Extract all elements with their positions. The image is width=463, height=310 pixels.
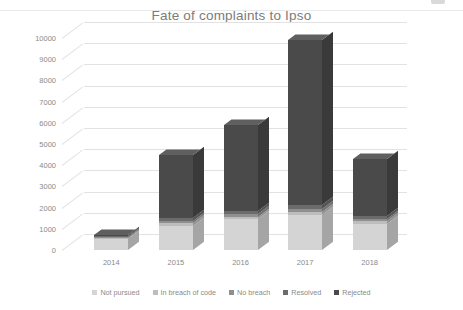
chart-legend: Not pursuedIn breach of codeNo breachRes… (0, 288, 463, 297)
axis-depth-line (62, 22, 83, 38)
y-axis-tick-label: 9000 (10, 55, 56, 64)
bar-segment (288, 212, 322, 215)
y-axis-tick-label: 8000 (10, 76, 56, 85)
bar-segment (353, 216, 387, 219)
bar-segment (94, 239, 128, 250)
legend-label: Rejected (342, 288, 370, 297)
axis-depth-line (62, 44, 83, 60)
bar-segment-side (193, 146, 204, 218)
legend-swatch-icon (92, 290, 97, 295)
bar-front-face (353, 159, 387, 250)
y-axis-tick-label: 0 (10, 246, 56, 255)
bar-segment (159, 155, 193, 218)
bar-side-face (258, 117, 269, 250)
gridline (84, 64, 407, 65)
legend-label: In breach of code (161, 288, 217, 297)
legend-label: Resolved (291, 288, 321, 297)
x-axis-tick-label: 2015 (146, 258, 206, 267)
gridline (84, 107, 407, 108)
gridline (84, 22, 407, 23)
y-axis-tick-label: 4000 (10, 161, 56, 170)
legend-swatch-icon (334, 290, 339, 295)
axis-depth-line (62, 65, 83, 81)
y-axis-tick-label: 2000 (10, 203, 56, 212)
bar-segment (159, 223, 193, 226)
bar-segment (353, 221, 387, 224)
legend-swatch-icon (153, 290, 158, 295)
axis-depth-line (62, 213, 83, 229)
bar-segment (353, 224, 387, 251)
bar-side-face (387, 151, 398, 250)
x-axis-tick-label: 2017 (275, 258, 335, 267)
bar-segment-side (322, 32, 333, 205)
bar-segment (159, 226, 193, 250)
bar-top-face (159, 149, 200, 155)
gridline (84, 86, 407, 87)
bar-segment (224, 219, 258, 250)
bar-segment (288, 40, 322, 205)
x-axis-tick-label: 2014 (81, 258, 141, 267)
bar-segment (224, 217, 258, 220)
bar-segment (224, 125, 258, 211)
bar-segment (288, 205, 322, 209)
bar-top-face (353, 153, 394, 159)
axis-depth-line (62, 192, 83, 208)
chart-container: Fate of complaints to Ipso Not pursuedIn… (0, 0, 463, 310)
y-axis-tick-label: 7000 (10, 97, 56, 106)
y-axis-tick-label: 1000 (10, 224, 56, 233)
legend-item[interactable]: Not pursued (92, 288, 139, 297)
bar-side-face (193, 146, 204, 250)
bar-front-face (159, 155, 193, 250)
bar-segment (159, 218, 193, 221)
chart-title: Fate of complaints to Ipso (0, 8, 463, 23)
bar-top-face (224, 119, 265, 125)
legend-swatch-icon (283, 290, 288, 295)
legend-swatch-icon (229, 290, 234, 295)
axis-depth-line (62, 128, 83, 144)
axis-depth-line (62, 150, 83, 166)
bar-segment-side (387, 151, 398, 216)
bar-segment (224, 211, 258, 214)
bar-segment (353, 159, 387, 216)
axis-depth-line (62, 171, 83, 187)
bar-segment (224, 214, 258, 217)
axis-depth-line (62, 107, 83, 123)
x-axis-tick-label: 2018 (340, 258, 400, 267)
bar-segment-side (258, 117, 269, 211)
gridline (84, 43, 407, 44)
legend-label: Not pursued (100, 288, 139, 297)
y-axis-tick-label: 10000 (10, 34, 56, 43)
bar-segment (353, 219, 387, 221)
bar-segment (94, 235, 128, 236)
axis-depth-line (62, 86, 83, 102)
legend-item[interactable]: Rejected (334, 288, 370, 297)
plot-area (62, 22, 407, 250)
legend-label: No breach (237, 288, 270, 297)
bar-front-face (94, 235, 128, 250)
x-axis-tick-label: 2016 (211, 258, 271, 267)
bar-segment (288, 215, 322, 250)
y-axis-tick-label: 3000 (10, 182, 56, 191)
y-axis-tick-label: 5000 (10, 140, 56, 149)
bar-side-face (322, 32, 333, 250)
bar-front-face (224, 125, 258, 250)
bar-segment (159, 221, 193, 223)
bar-segment (94, 236, 128, 237)
legend-item[interactable]: Resolved (283, 288, 321, 297)
bar-segment (94, 237, 128, 238)
axis-depth-line (62, 234, 83, 250)
y-axis-tick-label: 6000 (10, 118, 56, 127)
legend-item[interactable]: No breach (229, 288, 270, 297)
legend-item[interactable]: In breach of code (153, 288, 217, 297)
bar-front-face (288, 40, 322, 250)
bar-segment (288, 209, 322, 212)
cropped-artifact-icon (431, 0, 445, 4)
bar-segment (94, 238, 128, 239)
